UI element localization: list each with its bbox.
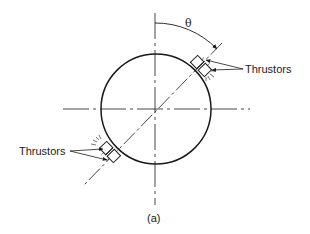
upper-thrustors-label: Thrustors [245, 63, 292, 75]
lower-thruster-exhaust-icon [91, 135, 101, 145]
satellite-thruster-diagram: θ Thrustors Thrustors (a) [0, 0, 310, 234]
upper-thrustors-leader [206, 60, 243, 70]
theta-label: θ [185, 17, 192, 30]
lower-thrustors-label: Thrustors [19, 145, 66, 157]
figure-caption: (a) [147, 212, 160, 224]
upper-thruster-icon [190, 53, 213, 76]
lower-thruster-icon [97, 141, 120, 164]
